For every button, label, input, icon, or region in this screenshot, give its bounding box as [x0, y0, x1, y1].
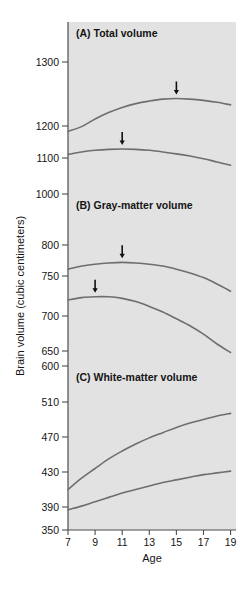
panel-B: (B) Gray-matter volume600650700750800: [41, 194, 236, 372]
x-tick-label-9: 9: [92, 536, 98, 548]
y-tick-label-C-510: 510: [41, 396, 59, 408]
y-tick-label-B-700: 700: [41, 310, 59, 322]
panel-C: (C) White-matter volume350390430470510: [41, 366, 236, 536]
y-tick-label-C-430: 430: [41, 466, 59, 478]
y-tick-label-B-750: 750: [41, 270, 59, 282]
panel-C-plot-area: [68, 366, 236, 530]
y-tick-label-A-1300: 1300: [36, 56, 60, 68]
y-tick-label-C-390: 390: [41, 501, 59, 513]
x-tick-label-13: 13: [143, 536, 155, 548]
panel-A-plot-area: [68, 22, 236, 194]
x-axis-label: Age: [142, 552, 162, 564]
x-tick-label-19: 19: [225, 536, 237, 548]
y-tick-label-B-800: 800: [41, 239, 59, 251]
y-tick-label-A-1000: 1000: [36, 188, 60, 200]
panel-B-title: (B) Gray-matter volume: [76, 199, 193, 211]
y-tick-label-A-1200: 1200: [36, 120, 60, 132]
x-tick-label-11: 11: [117, 536, 128, 548]
panel-A-title: (A) Total volume: [76, 27, 158, 39]
x-tick-label-15: 15: [171, 536, 183, 548]
panel-C-title: (C) White-matter volume: [76, 371, 198, 383]
y-tick-label-A-1100: 1100: [36, 152, 59, 164]
x-tick-label-17: 17: [198, 536, 210, 548]
y-tick-label-C-350: 350: [41, 524, 59, 536]
y-tick-label-B-600: 600: [41, 360, 59, 372]
y-tick-label-C-470: 470: [41, 431, 59, 443]
y-tick-label-B-650: 650: [41, 345, 59, 357]
chart-canvas: (A) Total volume1000110012001300(B) Gray…: [0, 0, 252, 594]
x-tick-label-7: 7: [65, 536, 71, 548]
brain-volume-figure: Brain volume (cubic centimeters) (A) Tot…: [0, 0, 252, 594]
